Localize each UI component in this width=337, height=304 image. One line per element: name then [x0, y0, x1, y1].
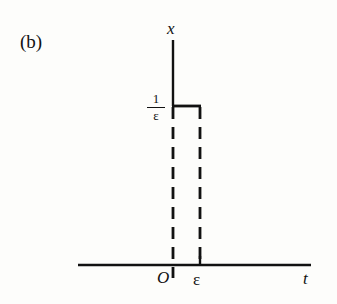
fraction-denominator: ε [146, 109, 166, 123]
panel-label: (b) [20, 32, 42, 51]
figure-drawing-canvas [0, 0, 337, 304]
origin-label: O [157, 269, 169, 286]
figure-panel-b: (b) x t O ε 1 ε [0, 0, 337, 304]
y-axis-name-label: x [167, 20, 175, 37]
fraction-numerator: 1 [146, 92, 166, 106]
epsilon-tick-label: ε [193, 271, 200, 288]
amplitude-fraction-label: 1 ε [146, 92, 166, 123]
x-axis-name-label: t [303, 270, 308, 287]
